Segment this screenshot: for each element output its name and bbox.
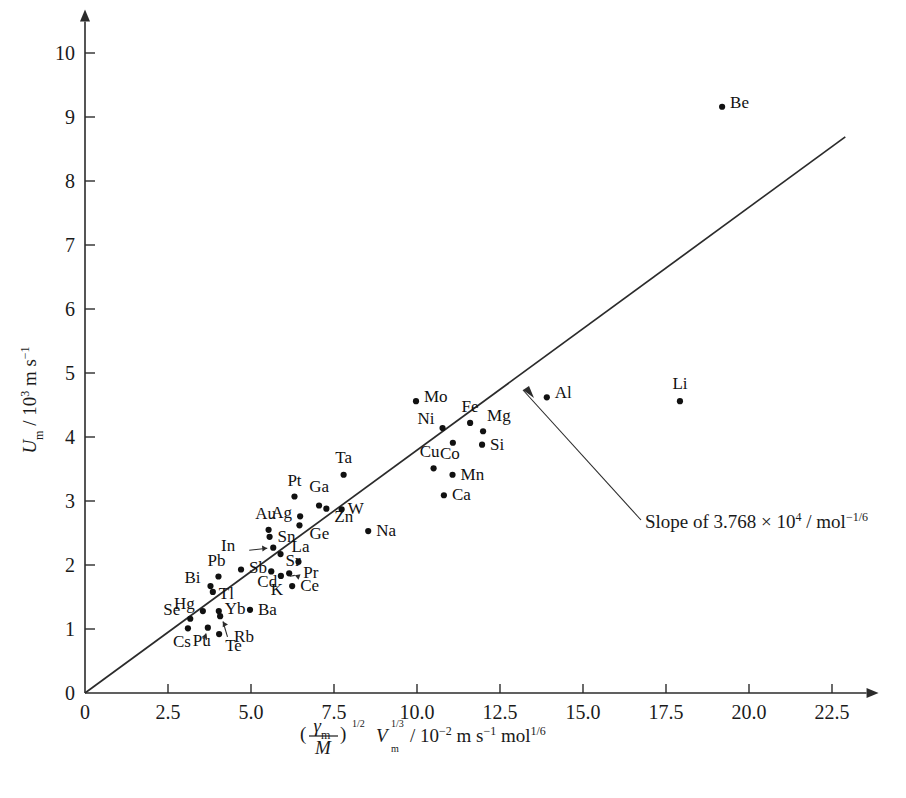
data-point: Co xyxy=(440,440,460,463)
data-point-marker xyxy=(265,527,271,533)
y-tick-label: 6 xyxy=(65,298,75,320)
data-point-marker xyxy=(439,425,445,431)
x-title-units-b: mol xyxy=(496,725,530,746)
y-tick-label: 5 xyxy=(65,362,75,384)
slope-base: 10 xyxy=(777,511,796,532)
x-title-denominator: M xyxy=(314,737,332,758)
data-point-label: Si xyxy=(490,435,504,454)
data-point-label: Pt xyxy=(287,471,301,490)
label-leader-arrowhead xyxy=(223,621,228,627)
data-point-label: Ba xyxy=(258,600,277,619)
y-title-tail: m s xyxy=(19,359,40,391)
data-point-label: Bi xyxy=(184,568,200,587)
data-point-marker xyxy=(413,398,419,404)
data-point-label: Ta xyxy=(335,448,352,467)
data-point-label: La xyxy=(292,537,310,556)
x-title-paren-exp: 1/2 xyxy=(352,718,365,729)
data-point-marker xyxy=(217,613,223,619)
label-leader-arrowhead xyxy=(262,546,267,552)
data-point: Ba xyxy=(247,600,277,619)
data-point: Cs xyxy=(173,625,191,651)
y-tick-label: 8 xyxy=(65,170,75,192)
data-point: Ce xyxy=(289,576,319,595)
x-tick-label: 15.0 xyxy=(566,701,601,723)
data-point: Be xyxy=(719,93,749,112)
data-point-marker xyxy=(247,607,253,613)
x-title-close-paren: ) xyxy=(340,723,346,745)
data-point-label: Pu xyxy=(193,631,211,650)
x-tick-label: 0 xyxy=(80,701,90,723)
slope-times: × xyxy=(761,511,772,532)
x-title-div-exp: −2 xyxy=(439,724,452,738)
data-point-marker xyxy=(296,522,302,528)
data-point-label: Ni xyxy=(418,409,435,428)
data-point-label: Sb xyxy=(249,558,267,577)
data-point: Fe xyxy=(462,397,479,426)
x-tick-label: 17.5 xyxy=(649,701,684,723)
x-title-v-sub: m xyxy=(391,743,399,754)
data-point-marker xyxy=(289,583,295,589)
data-point-label: Ga xyxy=(309,477,329,496)
x-title-tail: / 10−2 m s−1 mol1/6 xyxy=(410,724,546,746)
x-title-units-a: m s xyxy=(452,725,484,746)
data-points-group: BeLiAlMoNiFeMgCoSiCuMnTaCaPtGaZnWAgGeNaA… xyxy=(163,93,749,655)
data-point-marker xyxy=(238,566,244,572)
slope-arrow-line xyxy=(523,390,641,520)
x-title-open-paren: ( xyxy=(300,723,306,745)
data-point-label: Mg xyxy=(487,406,511,425)
data-point-marker xyxy=(365,528,371,534)
data-point-marker xyxy=(266,534,272,540)
data-point-marker xyxy=(480,428,486,434)
data-point-marker xyxy=(479,442,485,448)
data-point: Sb xyxy=(238,558,267,577)
y-tick-label: 10 xyxy=(55,42,75,64)
data-point-marker xyxy=(316,502,322,508)
data-point-marker xyxy=(431,465,437,471)
axes-group xyxy=(80,9,879,698)
data-point-label: W xyxy=(348,499,365,518)
data-point-label: Se xyxy=(163,600,180,619)
data-point-label: K xyxy=(271,580,284,599)
data-point-marker xyxy=(210,589,216,595)
x-title-units-a-exp: −1 xyxy=(483,724,496,738)
x-axis-arrowhead xyxy=(867,688,879,698)
data-point-label: Ge xyxy=(309,524,329,543)
slope-unit: mol xyxy=(816,511,846,532)
x-title-divider: / 10 xyxy=(410,725,439,746)
y-tick-label: 7 xyxy=(65,234,75,256)
data-point: Ca xyxy=(441,485,471,504)
y-axis-ticks: 012345678910 xyxy=(55,42,95,704)
data-point-marker xyxy=(207,583,213,589)
y-tick-label: 2 xyxy=(65,554,75,576)
data-point: Ga xyxy=(309,477,329,508)
data-point-marker xyxy=(449,472,455,478)
data-point-marker xyxy=(341,472,347,478)
x-title-v-exp: 1/3 xyxy=(391,718,404,729)
data-point: Si xyxy=(479,435,505,454)
data-point-label: Ce xyxy=(300,576,319,595)
data-point-marker xyxy=(216,631,222,637)
scatter-chart: 02.55.07.510.012.515.017.520.022.5 01234… xyxy=(0,0,906,798)
data-point: Mn xyxy=(449,465,484,484)
data-point-marker xyxy=(200,608,206,614)
data-point-label: Be xyxy=(730,93,749,112)
x-tick-label: 7.5 xyxy=(322,701,347,723)
data-point-label: Mo xyxy=(424,387,448,406)
x-tick-label: 10.0 xyxy=(400,701,435,723)
data-point: Cu xyxy=(420,442,440,471)
data-point-label: Co xyxy=(440,444,460,463)
data-point-label: Fe xyxy=(462,397,479,416)
data-point-marker xyxy=(677,398,683,404)
y-axis-title: Um / 103 m s−1 xyxy=(18,346,46,453)
y-title-tail-exp: −1 xyxy=(18,346,32,359)
data-point: Pb xyxy=(207,551,225,580)
y-tick-label: 4 xyxy=(65,426,75,448)
y-tick-label: 9 xyxy=(65,106,75,128)
data-point-label: Cs xyxy=(173,632,191,651)
data-point-marker xyxy=(291,493,297,499)
data-point: Pt xyxy=(287,471,301,500)
data-point: Li xyxy=(672,374,687,404)
data-point-marker xyxy=(270,545,276,551)
data-point-marker xyxy=(339,506,345,512)
data-point-marker xyxy=(297,513,303,519)
